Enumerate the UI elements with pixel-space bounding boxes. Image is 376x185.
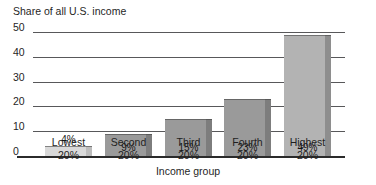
bar-top-edge xyxy=(105,134,152,135)
y-tick-label-30: 30 xyxy=(13,72,39,83)
chart-title: Share of all U.S. income xyxy=(13,5,126,18)
category-label-line2: 20% xyxy=(105,149,152,162)
category-label-line1: Second xyxy=(111,136,147,148)
y-tick-label-10: 10 xyxy=(13,121,39,132)
category-label-highest: Highest 20% xyxy=(284,136,331,161)
category-label-line2: 20% xyxy=(284,149,331,162)
x-axis-title: Income group xyxy=(0,165,376,178)
category-label-line1: Highest xyxy=(290,136,326,148)
gridline-50 xyxy=(33,32,345,33)
category-label-line2: 20% xyxy=(45,149,92,162)
category-label-fourth: Fourth 20% xyxy=(224,136,271,161)
category-label-second: Second 20% xyxy=(105,136,152,161)
category-label-third: Third 20% xyxy=(165,136,212,161)
bar-top-edge xyxy=(224,99,271,100)
y-tick-label-50: 50 xyxy=(13,22,39,33)
income-share-bar-chart: Share of all U.S. income xyxy=(0,0,376,185)
category-label-line1: Lowest xyxy=(52,136,85,148)
category-label-line1: Third xyxy=(177,136,201,148)
plot-area: 4% 9% 15% 23% 49% xyxy=(33,24,345,132)
bar-top-edge xyxy=(165,119,212,120)
bar-top-edge xyxy=(284,35,331,36)
category-label-line1: Fourth xyxy=(232,136,262,148)
y-tick-label-20: 20 xyxy=(13,96,39,107)
y-tick-label-40: 40 xyxy=(13,47,39,58)
category-label-line2: 20% xyxy=(165,149,212,162)
category-label-line2: 20% xyxy=(224,149,271,162)
y-tick-label-0: 0 xyxy=(13,146,39,157)
category-label-lowest: Lowest 20% xyxy=(45,136,92,161)
